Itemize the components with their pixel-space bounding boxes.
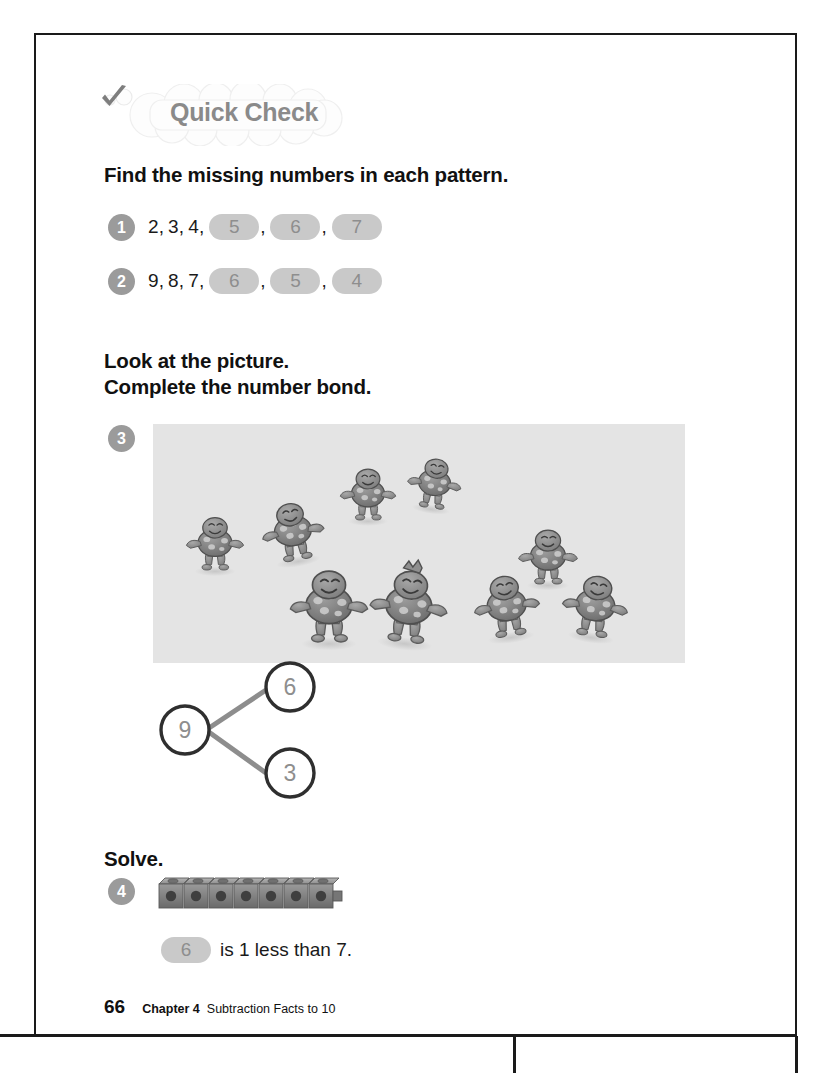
bond-value-part-top: 6 xyxy=(284,674,297,700)
given-number: 9 xyxy=(148,270,159,292)
answer-blank[interactable]: 5 xyxy=(270,268,320,294)
linking-cube-train-svg xyxy=(157,874,377,912)
answer-blank[interactable]: 6 xyxy=(161,937,211,963)
footer-page-number: 66 xyxy=(104,996,125,1018)
solve-statement-text: is 1 less than 7. xyxy=(220,939,352,961)
answer-blank[interactable]: 5 xyxy=(209,214,259,240)
linking-cube-train xyxy=(157,874,377,912)
page-spine-tick-right xyxy=(795,1036,798,1073)
number-bond-svg: 9 6 3 xyxy=(148,658,368,803)
answer-blank[interactable]: 6 xyxy=(209,268,259,294)
exercise-row-2: 9, 8, 7, 6, 5, 4 xyxy=(148,267,383,295)
bond-value-whole: 9 xyxy=(179,717,192,743)
given-number: 4 xyxy=(188,216,199,238)
quick-check-banner: Quick Check xyxy=(100,84,370,146)
given-number: 2 xyxy=(148,216,159,238)
exercise-row-1: 2, 3, 4, 5, 6, 7 xyxy=(148,213,383,241)
given-number: 7 xyxy=(188,270,199,292)
given-number: 3 xyxy=(168,216,179,238)
exercise-badge-2: 2 xyxy=(108,268,135,295)
bond-line-bottom xyxy=(206,730,266,773)
given-number: 8 xyxy=(168,270,179,292)
answer-blank[interactable]: 4 xyxy=(332,268,382,294)
instruction-solve: Solve. xyxy=(104,846,163,872)
page-spine-tick-left xyxy=(513,1036,516,1073)
solve-statement-row: 6 is 1 less than 7. xyxy=(160,936,352,964)
answer-blank[interactable]: 7 xyxy=(332,214,382,240)
footer-chapter: Chapter 4 xyxy=(142,1002,200,1016)
bond-line-top xyxy=(206,690,266,730)
exercise-badge-4: 4 xyxy=(108,878,135,905)
page-footer: 66 Chapter 4 Subtraction Facts to 10 xyxy=(104,996,335,1018)
bond-value-part-bottom: 3 xyxy=(284,760,297,786)
exercise-badge-1: 1 xyxy=(108,214,135,241)
number-bond-diagram: 9 6 3 xyxy=(148,658,368,803)
turtles-dancing-illustration xyxy=(153,424,685,663)
check-mark-icon xyxy=(100,84,128,112)
instruction-look-at-picture: Look at the picture. Complete the number… xyxy=(104,348,371,400)
exercise-badge-3: 3 xyxy=(108,425,135,452)
turtles-illustration-svg xyxy=(153,424,685,663)
quick-check-label: Quick Check xyxy=(170,98,318,127)
instruction-find-missing-numbers: Find the missing numbers in each pattern… xyxy=(104,162,508,188)
answer-blank[interactable]: 6 xyxy=(270,214,320,240)
page-bottom-rule xyxy=(0,1034,797,1037)
footer-chapter-title: Subtraction Facts to 10 xyxy=(207,1002,336,1016)
